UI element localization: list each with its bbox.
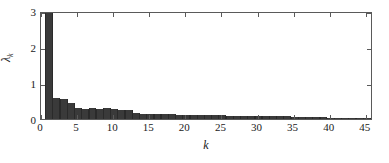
eigenvalue-spectrum-figure: λk 0123 051015202530354045 k: [0, 0, 389, 163]
x-tick-label: 15: [143, 122, 154, 133]
x-tick-label: 20: [179, 122, 190, 133]
x-axis-tick: [185, 13, 186, 17]
y-tick-label: 3: [24, 7, 36, 18]
x-axis-tick: [113, 13, 114, 17]
bar-series: [41, 13, 371, 119]
x-tick-label: 5: [73, 122, 79, 133]
y-axis-label: λk: [0, 53, 15, 62]
x-axis-tick: [330, 115, 331, 119]
y-axis-tick: [41, 85, 45, 86]
x-tick-label: 45: [359, 122, 370, 133]
x-tick-label: 30: [251, 122, 262, 133]
x-axis-tick: [185, 115, 186, 119]
x-axis-tick: [258, 115, 259, 119]
y-axis-label-symbol: λ: [0, 57, 13, 62]
x-axis-tick: [113, 115, 114, 119]
x-axis-tick: [77, 13, 78, 17]
y-tick-label: 1: [24, 79, 36, 90]
y-axis-tick: [367, 49, 371, 50]
x-axis-tick: [221, 115, 222, 119]
x-axis-tick: [41, 115, 42, 119]
x-tick-label: 0: [37, 122, 43, 133]
x-axis-tick: [77, 115, 78, 119]
x-axis-tick: [149, 13, 150, 17]
plot-area: [40, 12, 372, 120]
x-tick-label: 10: [107, 122, 118, 133]
y-tick-label: 0: [24, 115, 36, 126]
x-axis-tick: [294, 115, 295, 119]
y-axis-tick: [367, 13, 371, 14]
x-axis-tick: [366, 115, 367, 119]
y-axis-tick: [367, 85, 371, 86]
y-axis-tick: [41, 49, 45, 50]
y-axis-label-subscript: k: [6, 53, 15, 57]
x-axis-tick: [330, 13, 331, 17]
x-axis-tick: [221, 13, 222, 17]
x-tick-label: 40: [323, 122, 334, 133]
x-axis-label: k: [40, 139, 372, 151]
x-axis-tick: [149, 115, 150, 119]
x-axis-tick: [294, 13, 295, 17]
x-tick-label: 25: [215, 122, 226, 133]
x-tick-label: 35: [287, 122, 298, 133]
y-tick-label: 2: [24, 43, 36, 54]
x-axis-tick: [258, 13, 259, 17]
y-axis-tick: [41, 13, 45, 14]
